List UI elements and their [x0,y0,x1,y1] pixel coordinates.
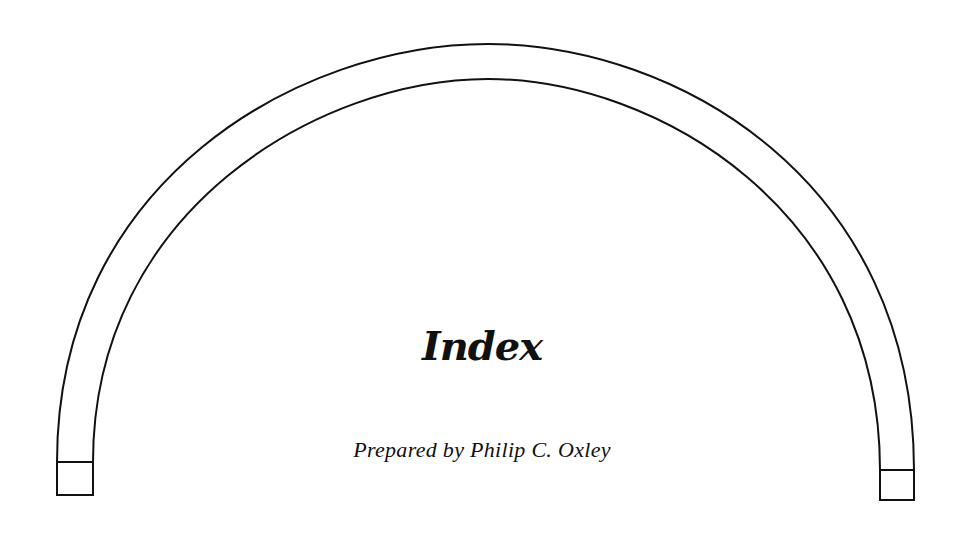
index-title-page: Index Prepared by Philip C. Oxley [0,0,964,534]
left-base-block [57,462,93,495]
right-base-block [880,470,914,500]
page-subtitle: Prepared by Philip C. Oxley [0,437,964,463]
page-title: Index [0,322,964,369]
